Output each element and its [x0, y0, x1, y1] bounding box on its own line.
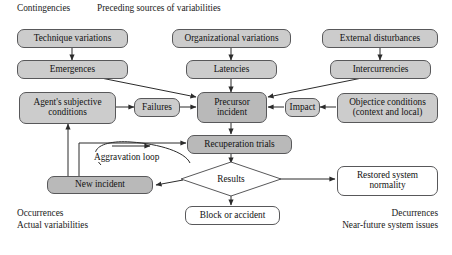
- header-contingencies: Contingencies: [17, 3, 70, 15]
- node-technique-variations[interactable]: Technique variations: [17, 29, 128, 48]
- node-organizational-variations[interactable]: Organizational variations: [172, 29, 291, 48]
- aggravation-loop-label: Aggravation loop: [93, 152, 160, 162]
- node-intercurrencies[interactable]: Intercurrencies: [330, 60, 431, 79]
- footer-occurrences: Occurrences: [17, 208, 63, 220]
- header-preceding-sources: Preceding sources of variabilities: [97, 3, 221, 15]
- node-external-disturbances[interactable]: External disturbances: [322, 29, 438, 48]
- node-latencies-label: Latencies: [211, 65, 253, 75]
- node-results-label: Results: [217, 174, 244, 184]
- node-emergences-label: Emergences: [47, 65, 98, 75]
- node-new-incident[interactable]: New incident: [47, 176, 153, 194]
- footer-near-future-system-issues: Near-future system issues: [342, 220, 438, 232]
- node-objective-conditions[interactable]: Objectice conditions (context and local): [337, 93, 438, 123]
- node-agents-subjective-conditions-line2: conditions: [45, 108, 90, 118]
- node-precursor-incident[interactable]: Precursor incident: [197, 92, 267, 123]
- footer-actual-variabilities: Actual variabilities: [17, 220, 88, 232]
- node-impact[interactable]: Impact: [285, 98, 320, 117]
- arrow-results-to-new-incident: [156, 180, 183, 185]
- node-external-disturbances-label: External disturbances: [337, 34, 423, 44]
- node-technique-variations-label: Technique variations: [31, 34, 115, 44]
- arrow-emergences-to-precursor: [101, 78, 196, 97]
- node-new-incident-label: New incident: [72, 180, 128, 190]
- node-block-or-accident[interactable]: Block or accident: [185, 206, 280, 225]
- node-block-or-accident-label: Block or accident: [197, 211, 269, 221]
- node-restored-system-normality-line2: normality: [366, 181, 408, 191]
- node-objective-conditions-line2: (context and local): [350, 108, 426, 118]
- node-precursor-incident-line2: incident: [214, 108, 250, 118]
- node-recuperation-trials-label: Recuperation trials: [201, 140, 277, 150]
- node-restored-system-normality[interactable]: Restored system normality: [337, 166, 438, 196]
- node-intercurrencies-label: Intercurrencies: [350, 65, 412, 75]
- diagram-canvas: Contingencies Preceding sources of varia…: [0, 0, 452, 255]
- node-failures[interactable]: Failures: [134, 98, 180, 117]
- node-recuperation-trials[interactable]: Recuperation trials: [187, 135, 292, 154]
- node-agents-subjective-conditions[interactable]: Agent's subjective conditions: [19, 92, 116, 124]
- footer-decurrences: Decurrences: [392, 208, 438, 220]
- node-failures-label: Failures: [139, 103, 175, 113]
- node-latencies[interactable]: Latencies: [186, 60, 277, 79]
- node-results[interactable]: Results: [180, 161, 282, 197]
- node-organizational-variations-label: Organizational variations: [181, 34, 281, 44]
- node-impact-label: Impact: [287, 103, 319, 113]
- node-emergences[interactable]: Emergences: [17, 60, 128, 79]
